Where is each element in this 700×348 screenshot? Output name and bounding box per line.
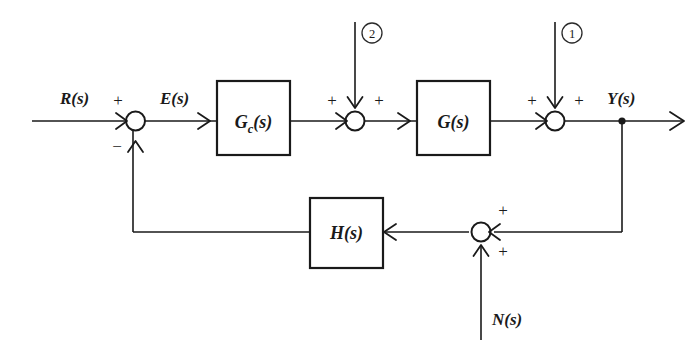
block-h[interactable]: H(s) — [310, 198, 383, 268]
sign-noise-output-plus: + — [498, 201, 508, 220]
disturbance-2-number: 2 — [369, 27, 375, 41]
block-h-letter: H — [329, 223, 345, 243]
summing-junction-noise[interactable]: + + — [472, 201, 508, 261]
disturbance-marker-1: 1 — [562, 23, 582, 43]
sign-noise-noise-plus: + — [498, 242, 508, 261]
sign-d2-disturbance-plus: + — [374, 91, 384, 110]
sum-d2-circle[interactable] — [346, 112, 365, 131]
sum-d1-circle[interactable] — [546, 112, 565, 131]
block-h-arg: (s) — [344, 223, 363, 244]
block-g-arg: (s) — [451, 112, 470, 133]
label-output-signal: Y(s) — [607, 89, 635, 108]
label-noise-signal: N(s) — [491, 310, 522, 329]
sum-noise-circle[interactable] — [472, 223, 491, 242]
summing-junction-error[interactable]: + − — [112, 91, 145, 156]
diagram-canvas: Gc(s) G(s) H(s) + − + + — [0, 0, 700, 348]
output-branch-dot — [618, 117, 625, 124]
label-reference-signal: R(s) — [59, 89, 89, 108]
block-g-label: G(s) — [438, 112, 470, 133]
disturbance-marker-2: 2 — [362, 23, 382, 43]
sign-d1-disturbance-plus: + — [574, 91, 584, 110]
block-g[interactable]: G(s) — [417, 81, 490, 155]
block-h-label: H(s) — [329, 223, 363, 244]
sign-feedback-minus: − — [112, 137, 122, 156]
block-gc[interactable]: Gc(s) — [217, 81, 290, 155]
sum-error-circle[interactable] — [126, 112, 145, 131]
block-gc-arg: (s) — [253, 112, 272, 133]
sum-error-feedback-arrow-icon — [128, 141, 143, 152]
sign-reference-plus: + — [113, 91, 123, 110]
sign-d1-forward-plus: + — [527, 91, 537, 110]
block-gc-letter: G — [235, 112, 248, 132]
block-g-letter: G — [438, 112, 451, 132]
sign-d2-forward-plus: + — [327, 91, 337, 110]
disturbance-1-number: 1 — [569, 27, 575, 41]
label-error-signal: E(s) — [159, 89, 189, 108]
block-diagram-figure: Gc(s) G(s) H(s) + − + + — [0, 0, 700, 348]
